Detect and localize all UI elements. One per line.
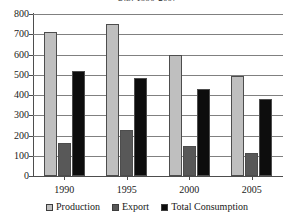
legend-item: Export	[112, 202, 149, 212]
x-tick-label: 2000	[169, 184, 209, 195]
x-tick-mark	[189, 176, 190, 180]
x-tick-label: 2005	[232, 184, 272, 195]
legend-swatch-export	[112, 204, 119, 211]
x-tick-label: 1995	[107, 184, 147, 195]
bar-export-1990	[58, 143, 71, 176]
y-tick-label: 500	[2, 70, 29, 80]
bar-production-1995	[106, 24, 119, 176]
chart-legend: ProductionExportTotal Consumption	[0, 202, 294, 212]
y-tick-label: 300	[2, 110, 29, 120]
bars-layer	[33, 14, 283, 176]
x-tick-label: 1990	[44, 184, 84, 195]
legend-swatch-consumption	[161, 204, 168, 211]
bar-export-2000	[183, 146, 196, 176]
legend-item: Production	[46, 202, 100, 212]
y-tick-label: 100	[2, 151, 29, 161]
x-tick-mark	[252, 176, 253, 180]
chart-container: U.S. 1990-2007 0100200300400500600700800…	[0, 0, 294, 220]
x-axis-line	[29, 176, 283, 177]
bar-consumption-1990	[72, 71, 85, 176]
bar-production-2000	[169, 55, 182, 177]
legend-item: Total Consumption	[161, 202, 248, 212]
x-tick-mark	[127, 176, 128, 180]
y-tick-label: 400	[2, 90, 29, 100]
legend-label: Total Consumption	[171, 202, 248, 212]
bar-consumption-2000	[197, 89, 210, 176]
bar-consumption-2005	[259, 99, 272, 176]
legend-label: Export	[122, 202, 149, 212]
bar-export-2005	[245, 153, 258, 176]
legend-label: Production	[56, 202, 100, 212]
bar-production-2005	[231, 76, 244, 176]
y-tick-label: 800	[2, 9, 29, 19]
bar-production-1990	[44, 32, 57, 176]
bar-export-1995	[120, 130, 133, 176]
y-tick-label: 700	[2, 29, 29, 39]
x-tick-mark	[64, 176, 65, 180]
legend-swatch-production	[46, 204, 53, 211]
chart-title: U.S. 1990-2007	[0, 0, 294, 3]
y-tick-label: 200	[2, 131, 29, 141]
y-axis-labels: 0100200300400500600700800	[0, 0, 29, 220]
y-tick-label: 0	[2, 171, 29, 181]
y-tick-label: 600	[2, 50, 29, 60]
bar-consumption-1995	[134, 78, 147, 176]
